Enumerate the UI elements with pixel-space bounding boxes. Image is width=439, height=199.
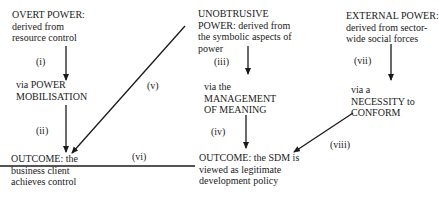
node-external-power: EXTERNAL POWER: derived from sector- wid… xyxy=(346,10,439,45)
edge-label-iv: (iv) xyxy=(211,126,225,137)
node-line: EXTERNAL POWER: xyxy=(346,10,439,22)
arrow-v xyxy=(72,26,185,153)
node-line: UNOBTRUSIVE xyxy=(198,8,292,20)
node-unobtrusive-power: UNOBTRUSIVE POWER: derived from the symb… xyxy=(198,8,292,54)
node-outcome-sdm: OUTCOME: the SDM is viewed as legitimate… xyxy=(199,152,299,187)
node-line: development policy xyxy=(199,175,299,187)
node-line: MOBILISATION xyxy=(16,91,87,103)
edge-label-viii: (viii) xyxy=(330,139,350,150)
node-line: OVERT POWER: xyxy=(12,9,85,21)
node-line: CONFORM xyxy=(351,107,415,119)
node-outcome-control: OUTCOME: the business client achieves co… xyxy=(11,153,78,188)
node-line: via POWER xyxy=(16,79,87,91)
edge-label-iii: (iii) xyxy=(214,56,229,67)
edge-label-i: (i) xyxy=(36,56,45,67)
edge-label-vii: (vii) xyxy=(354,55,371,66)
node-line: POWER: derived from xyxy=(198,20,292,32)
node-line: OUTCOME: the xyxy=(11,153,78,165)
node-line: wide social forces xyxy=(346,33,439,45)
node-line: business client xyxy=(11,165,78,177)
node-line: the symbolic aspects of xyxy=(198,31,292,43)
node-line: OF MEANING xyxy=(204,104,276,116)
edge-label-v: (v) xyxy=(147,80,159,91)
edge-label-vi: (vi) xyxy=(132,151,146,162)
node-management-of-meaning: via the MANAGEMENT OF MEANING xyxy=(204,81,276,116)
node-line: MANAGEMENT xyxy=(204,93,276,105)
edge-label-ii: (ii) xyxy=(36,125,48,136)
node-line: power xyxy=(198,43,292,55)
node-line: NECESSITY to xyxy=(351,96,415,108)
node-line: via the xyxy=(204,81,276,93)
node-line: derived from sector- xyxy=(346,22,439,34)
node-power-mobilisation: via POWER MOBILISATION xyxy=(16,79,87,102)
node-overt-power: OVERT POWER: derived from resource contr… xyxy=(12,9,85,44)
node-line: derived from xyxy=(12,21,85,33)
node-line: resource control xyxy=(12,32,85,44)
node-line: achieves control xyxy=(11,176,78,188)
node-line: viewed as legitimate xyxy=(199,164,299,176)
node-necessity-to-conform: via a NECESSITY to CONFORM xyxy=(351,84,415,119)
node-line: OUTCOME: the SDM is xyxy=(199,152,299,164)
node-line: via a xyxy=(351,84,415,96)
